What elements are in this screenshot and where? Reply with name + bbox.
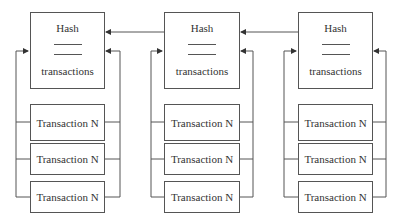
transaction-box: Transaction N bbox=[164, 181, 240, 213]
transaction-box: Transaction N bbox=[30, 104, 105, 141]
hash-label: Hash bbox=[165, 22, 239, 34]
divider bbox=[54, 54, 82, 55]
transactions-label: transactions bbox=[299, 65, 372, 77]
transactions-label: transactions bbox=[165, 65, 239, 77]
block-header-3: Hash transactions bbox=[298, 12, 373, 89]
transactions-label: transactions bbox=[31, 65, 104, 77]
transaction-box: Transaction N bbox=[164, 104, 240, 141]
transaction-box: Transaction N bbox=[298, 143, 373, 175]
transaction-box: Transaction N bbox=[30, 181, 105, 213]
divider bbox=[188, 54, 216, 55]
divider bbox=[322, 44, 350, 45]
transaction-box: Transaction N bbox=[30, 143, 105, 175]
divider bbox=[322, 54, 350, 55]
divider bbox=[188, 44, 216, 45]
hash-label: Hash bbox=[299, 22, 372, 34]
transaction-box: Transaction N bbox=[298, 104, 373, 141]
hash-label: Hash bbox=[31, 22, 104, 34]
transaction-box: Transaction N bbox=[164, 143, 240, 175]
transaction-box: Transaction N bbox=[298, 181, 373, 213]
divider bbox=[54, 44, 82, 45]
block-header-2: Hash transactions bbox=[164, 12, 240, 89]
block-header-1: Hash transactions bbox=[30, 12, 105, 89]
